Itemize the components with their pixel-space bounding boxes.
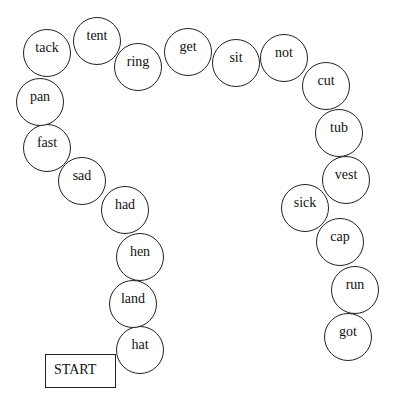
board-space-hat[interactable]: hat	[116, 326, 164, 374]
space-word: not	[275, 46, 293, 60]
board-space-tub[interactable]: tub	[315, 109, 363, 157]
game-board: START hatlandhenhadsadfastpantacktentrin…	[0, 0, 393, 410]
space-word: hat	[131, 338, 148, 352]
space-word: tent	[87, 29, 108, 43]
board-space-cut[interactable]: cut	[302, 62, 350, 110]
board-space-tent[interactable]: tent	[73, 17, 121, 65]
start-box[interactable]: START	[45, 354, 116, 388]
board-space-tack[interactable]: tack	[23, 29, 71, 77]
board-space-sit[interactable]: sit	[212, 39, 260, 87]
board-space-hen[interactable]: hen	[116, 233, 164, 281]
board-space-ring[interactable]: ring	[114, 43, 162, 91]
board-space-sad[interactable]: sad	[58, 157, 106, 205]
board-space-land[interactable]: land	[109, 280, 157, 328]
board-space-had[interactable]: had	[101, 186, 149, 234]
board-space-pan[interactable]: pan	[16, 78, 64, 126]
board-space-fast[interactable]: fast	[23, 124, 71, 172]
space-word: sad	[73, 169, 92, 183]
space-word: tack	[35, 41, 58, 55]
space-word: get	[179, 40, 196, 54]
space-word: tub	[330, 121, 348, 135]
space-word: had	[115, 198, 135, 212]
board-space-get[interactable]: get	[164, 28, 212, 76]
space-word: got	[339, 325, 357, 339]
space-word: run	[346, 278, 365, 292]
space-word: cut	[317, 74, 334, 88]
board-space-vest[interactable]: vest	[322, 156, 370, 204]
space-word: pan	[30, 90, 50, 104]
space-word: sit	[229, 51, 242, 65]
space-word: land	[121, 292, 145, 306]
start-label: START	[54, 362, 96, 377]
space-word: cap	[330, 230, 349, 244]
space-word: fast	[37, 136, 57, 150]
board-space-run[interactable]: run	[331, 266, 379, 314]
space-word: ring	[127, 55, 150, 69]
space-word: vest	[335, 168, 358, 182]
space-word: sick	[294, 196, 317, 210]
board-space-got[interactable]: got	[324, 313, 372, 361]
board-space-not[interactable]: not	[260, 34, 308, 82]
board-space-cap[interactable]: cap	[316, 218, 364, 266]
space-word: hen	[130, 245, 150, 259]
